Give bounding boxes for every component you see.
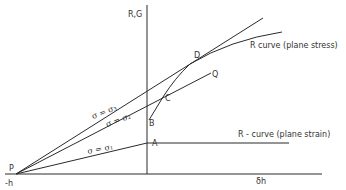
y-axis-label: R,G <box>128 10 142 19</box>
plane-strain-label: R - curve (plane strain) <box>238 130 330 139</box>
point-q-label: Q <box>212 70 218 79</box>
plane-stress-label: R curve (plane stress) <box>250 41 338 50</box>
point-a-label: A <box>152 139 158 148</box>
r-curve-diagram: R,G δh -h P A B C D Q σ = σ₃ σ = σ₂ σ = … <box>0 0 346 190</box>
origin-label: -h <box>5 179 13 188</box>
point-b-label: B <box>149 119 155 128</box>
point-p-label: P <box>9 164 14 173</box>
point-d-label: D <box>194 51 200 60</box>
sigma1-line <box>16 143 147 174</box>
point-c-label: C <box>165 94 171 103</box>
x-axis-label: δh <box>256 177 266 186</box>
sigma3-line <box>16 18 263 174</box>
